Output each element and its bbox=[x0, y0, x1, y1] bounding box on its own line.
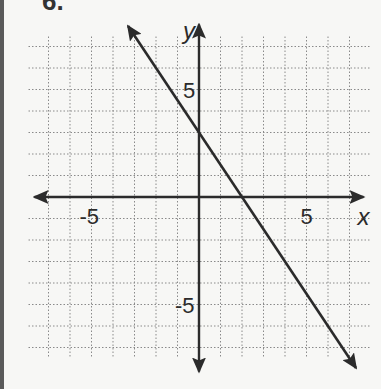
y-tick-label: 5 bbox=[183, 78, 195, 103]
coordinate-plane: x y -555-5 bbox=[0, 0, 381, 389]
y-tick-label: -5 bbox=[175, 293, 195, 318]
y-axis-label: y bbox=[181, 17, 197, 44]
tick-labels: x y -555-5 bbox=[80, 17, 371, 318]
x-tick-label: -5 bbox=[80, 204, 100, 229]
x-tick-label: 5 bbox=[301, 204, 313, 229]
x-axis-label: x bbox=[357, 203, 371, 230]
axes bbox=[35, 25, 364, 372]
